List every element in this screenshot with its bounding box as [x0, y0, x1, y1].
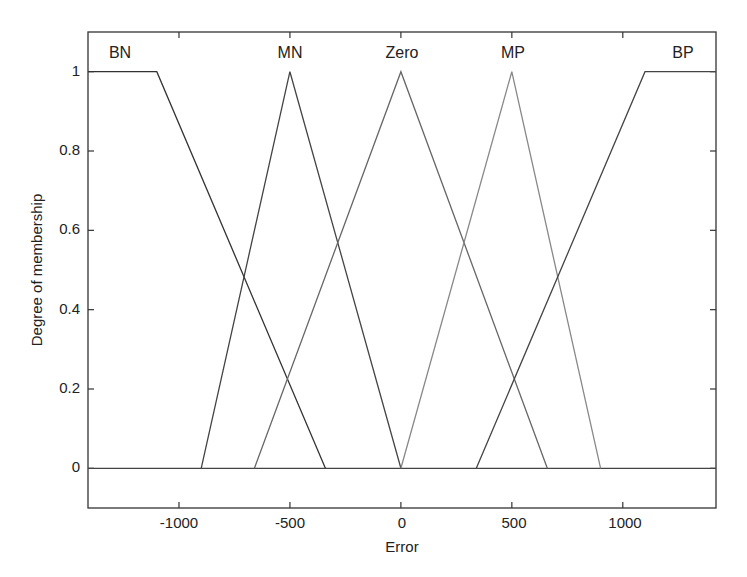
tick-marks	[88, 32, 716, 508]
mf-label-bn: BN	[109, 44, 131, 61]
y-tick-label-0.4: 0.4	[59, 300, 80, 317]
y-axis-label: Degree of membership	[28, 194, 45, 347]
x-tick-label-500: 500	[501, 514, 526, 531]
mf-curve-mn	[201, 72, 401, 469]
y-tick-label-0.6: 0.6	[59, 220, 80, 237]
x-tick-label-1000: 1000	[608, 514, 641, 531]
mf-curve-zero	[254, 72, 547, 469]
mf-curve-bp	[476, 72, 716, 469]
axes-box	[88, 32, 716, 508]
x-tick-label-neg500: -500	[275, 514, 305, 531]
membership-function-chart: 0 0.2 0.4 0.6 0.8 1 -1000 -500 0 500 100…	[0, 0, 747, 577]
y-tick-label-0.2: 0.2	[59, 379, 80, 396]
y-tick-label-0: 0	[72, 458, 80, 475]
y-tick-label-0.8: 0.8	[59, 141, 80, 158]
x-tick-label-neg1000: -1000	[160, 514, 198, 531]
x-tick-label-0: 0	[398, 514, 406, 531]
mf-label-zero: Zero	[386, 44, 419, 61]
x-axis-label: Error	[385, 538, 418, 555]
mf-label-mn: MN	[278, 44, 303, 61]
y-tick-label-1: 1	[72, 62, 80, 79]
mf-label-mp: MP	[501, 44, 525, 61]
mf-label-bp: BP	[672, 44, 693, 61]
mf-curve-bn	[88, 72, 325, 469]
membership-curves	[88, 72, 716, 469]
mf-curve-mp	[401, 72, 601, 469]
